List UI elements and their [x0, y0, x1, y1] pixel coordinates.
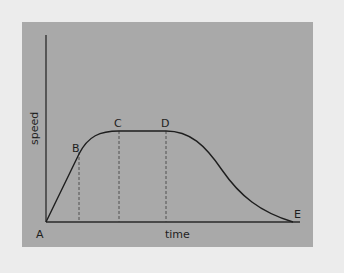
label-b: B: [72, 142, 80, 155]
label-c: C: [114, 117, 122, 130]
label-d: D: [161, 117, 169, 130]
speed-curve: [46, 131, 293, 222]
label-a: A: [36, 228, 44, 241]
speed-time-graph: A B C D E time speed: [0, 0, 344, 273]
x-axis-label: time: [165, 228, 190, 241]
label-e: E: [294, 208, 301, 221]
y-axis-label: speed: [28, 112, 41, 145]
